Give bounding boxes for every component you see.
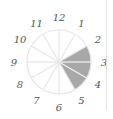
- sectors: [27, 30, 91, 94]
- clock-fraction-diagram: 121234567891011: [0, 0, 113, 119]
- divider-line: [106, 0, 107, 110]
- hour-label: 12: [53, 12, 66, 23]
- hour-label: 1: [78, 18, 84, 29]
- hour-label: 10: [14, 34, 27, 45]
- hour-label: 11: [30, 18, 43, 29]
- hour-label: 6: [56, 102, 63, 113]
- hour-label: 7: [33, 95, 40, 106]
- hour-label: 8: [17, 79, 23, 90]
- hour-label: 9: [11, 57, 18, 68]
- hour-label: 4: [94, 79, 101, 90]
- hour-label: 2: [94, 34, 101, 45]
- hour-label: 5: [78, 95, 84, 106]
